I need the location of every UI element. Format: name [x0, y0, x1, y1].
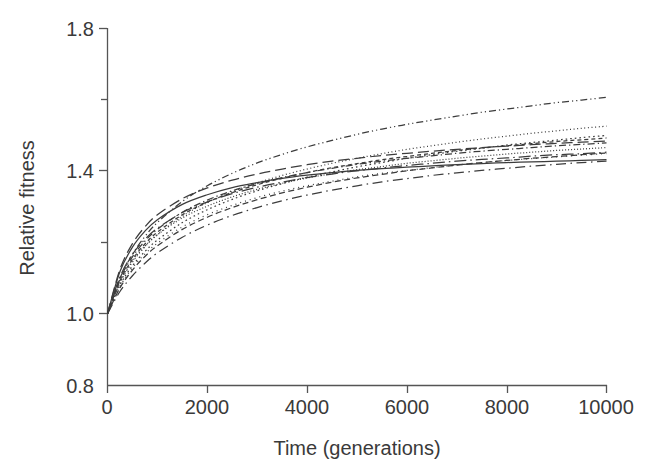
- x-tick-label-8000: 8000: [485, 396, 530, 418]
- x-tick-label-0: 0: [101, 396, 112, 418]
- chart-svg: 1.8 1.4 1.0 0.8 0 2000 4000 6000 8000 10…: [0, 0, 652, 476]
- y-tick-label-1-8: 1.8: [66, 18, 94, 40]
- x-tick-label-6000: 6000: [385, 396, 430, 418]
- x-tick-label-4000: 4000: [285, 396, 330, 418]
- fitness-trajectory-chart: 1.8 1.4 1.0 0.8 0 2000 4000 6000 8000 10…: [0, 0, 652, 476]
- x-tick-label-10000: 10000: [578, 396, 634, 418]
- y-tick-label-1-4: 1.4: [66, 160, 94, 182]
- x-axis-title: Time (generations): [273, 437, 440, 459]
- y-tick-label-1-0: 1.0: [66, 303, 94, 325]
- y-axis-title: Relative fitness: [16, 140, 38, 276]
- y-tick-label-0-8: 0.8: [66, 375, 94, 397]
- x-tick-label-2000: 2000: [185, 396, 230, 418]
